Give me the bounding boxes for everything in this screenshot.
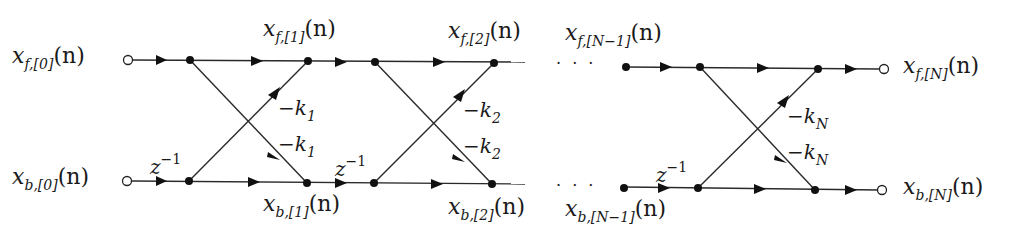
- gain-upper-stage-1: −k1: [278, 98, 316, 123]
- sum-node: [304, 57, 312, 65]
- label-xb1: xb,[1](n): [263, 193, 340, 219]
- delay-stage-1: z−1: [150, 152, 181, 177]
- gain-lower-stage-1: −k1: [278, 134, 316, 159]
- delay-stage-2: z−1: [335, 154, 366, 179]
- ellipsis-backward: · · ·: [556, 176, 596, 195]
- label-xf2: xf,[2](n): [448, 20, 521, 46]
- sum-node: [814, 65, 822, 73]
- node: [622, 63, 630, 71]
- output-terminal-backward: [878, 186, 887, 195]
- node: [620, 184, 628, 192]
- label-xf1: xf,[1](n): [263, 18, 336, 44]
- label-output-forward: xf,[N](n): [903, 55, 979, 81]
- label-output-backward: xb,[N](n): [903, 176, 983, 202]
- gain-lower-stage-2: −k2: [463, 136, 501, 161]
- split-node: [694, 184, 702, 192]
- split-node: [696, 63, 704, 71]
- input-terminal-backward: [123, 177, 132, 186]
- label-input-backward: xb,[0](n): [12, 166, 89, 192]
- split-node: [371, 58, 379, 66]
- gain-upper-stage-2: −k2: [463, 100, 501, 125]
- label-xb2: xb,[2](n): [448, 196, 525, 222]
- delay-stage-N: z−1: [656, 160, 687, 185]
- arrowheads: [156, 55, 857, 195]
- label-input-forward: xf,[0](n): [12, 45, 85, 71]
- sum-node: [811, 186, 819, 194]
- split-node: [185, 177, 193, 185]
- gain-lower-stage-N: −kN: [787, 142, 828, 167]
- label-xbN-1: xb,[N−1](n): [565, 198, 666, 224]
- ellipsis-forward: · · ·: [556, 54, 596, 73]
- output-terminal-forward: [880, 65, 889, 74]
- split-node: [186, 56, 194, 64]
- input-terminal-forward: [124, 56, 133, 65]
- sum-node: [488, 180, 496, 188]
- split-node: [370, 179, 378, 187]
- sum-node: [490, 59, 498, 67]
- label-xfN-1: xf,[N−1](n): [565, 22, 662, 48]
- gain-upper-stage-N: −kN: [787, 106, 828, 131]
- sum-node: [303, 179, 311, 187]
